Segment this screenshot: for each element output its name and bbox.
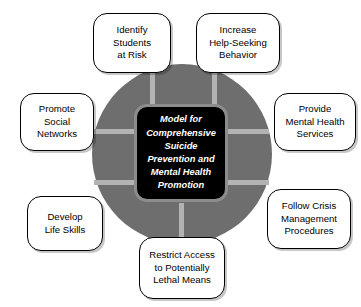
node-provide-mental-health-services[interactable]: Provide Mental Health Services: [274, 93, 356, 151]
spoke-to-follow-crisis-management: [227, 180, 269, 185]
node-restrict-access-to-potentially-lethal-means[interactable]: Restrict Access to Potentially Lethal Me…: [139, 237, 225, 299]
node-promote-social-networks[interactable]: Promote Social Networks: [20, 93, 94, 151]
node-label: Identify Students at Risk: [110, 24, 154, 61]
spoke-to-promote-social-networks: [94, 129, 136, 134]
spoke-to-provide-mental-health: [227, 129, 269, 134]
node-increase-help-seeking-behavior[interactable]: Increase Help-Seeking Behavior: [196, 13, 280, 73]
node-label: Follow Crisis Management Procedures: [278, 200, 340, 237]
node-label: Increase Help-Seeking Behavior: [206, 24, 270, 61]
node-label: Restrict Access to Potentially Lethal Me…: [146, 249, 218, 286]
spoke-to-develop-life-skills: [94, 180, 136, 185]
node-develop-life-skills[interactable]: Develop Life Skills: [27, 196, 103, 251]
node-identify-students-at-risk[interactable]: Identify Students at Risk: [93, 13, 171, 73]
comprehensive-suicide-prevention-diagram: Model for Comprehensive Suicide Preventi…: [0, 0, 361, 307]
center-model-label: Model for Comprehensive Suicide Preventi…: [137, 113, 225, 192]
node-label: Provide Mental Health Services: [282, 103, 347, 140]
node-follow-crisis-management-procedures[interactable]: Follow Crisis Management Procedures: [267, 189, 351, 249]
center-model-box: Model for Comprehensive Suicide Preventi…: [134, 104, 228, 202]
node-label: Develop Life Skills: [42, 211, 89, 236]
node-label: Promote Social Networks: [34, 103, 80, 140]
